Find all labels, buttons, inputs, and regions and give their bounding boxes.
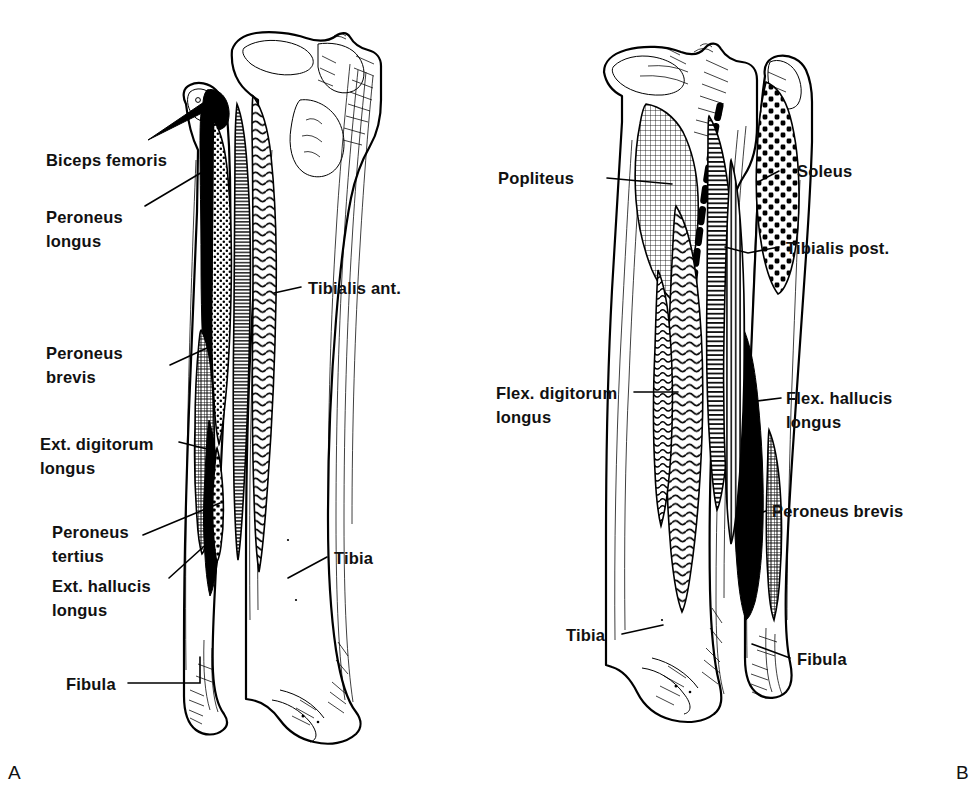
- label-tibia-a: Tibia: [334, 549, 374, 567]
- label-fibula-b: Fibula: [797, 650, 847, 668]
- label-peroneus-brevis-a-line1: Peroneus: [46, 344, 123, 362]
- panel-b: [604, 44, 812, 722]
- label-peroneus-brevis-b: Peroneus brevis: [772, 502, 903, 520]
- label-flexor-digitorum-longus-b-line1: Flex. digitorum: [496, 384, 617, 402]
- label-flexor-hallucis-longus-b-line1: Flex. hallucis: [786, 389, 892, 407]
- label-tibia-b: Tibia: [566, 626, 606, 644]
- label-peroneus-tertius-a-line2: tertius: [52, 547, 104, 565]
- label-flexor-digitorum-longus-b-line2: longus: [496, 408, 551, 426]
- anatomical-figure: Biceps femoris Peroneus longus Tibialis …: [0, 0, 972, 800]
- label-biceps-femoris-a: Biceps femoris: [46, 151, 167, 169]
- label-ext-digitorum-longus-a-line1: Ext. digitorum: [40, 435, 154, 453]
- label-peroneus-brevis-a-line2: brevis: [46, 368, 96, 386]
- label-soleus-b: Soleus: [797, 162, 852, 180]
- label-ext-hallucis-longus-a-line1: Ext. hallucis: [52, 577, 151, 595]
- label-tibialis-anterior-a: Tibialis ant.: [308, 279, 401, 297]
- label-ext-digitorum-longus-a-line2: longus: [40, 459, 95, 477]
- figure-canvas: Biceps femoris Peroneus longus Tibialis …: [0, 0, 972, 800]
- label-peroneus-tertius-a-line1: Peroneus: [52, 523, 129, 541]
- label-ext-hallucis-longus-a-line2: longus: [52, 601, 107, 619]
- label-fibula-a: Fibula: [66, 675, 116, 693]
- label-tibialis-posterior-b: Tibialis post.: [786, 239, 889, 257]
- label-flexor-hallucis-longus-b-line2: longus: [786, 413, 841, 431]
- label-peroneus-longus-a-line2: longus: [46, 232, 101, 250]
- label-peroneus-longus-a-line1: Peroneus: [46, 208, 123, 226]
- panel-id-a: A: [8, 762, 21, 783]
- label-popliteus-b: Popliteus: [498, 169, 574, 187]
- panel-id-b: B: [956, 762, 969, 783]
